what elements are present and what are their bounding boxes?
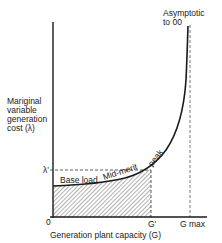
- y-axis-label: Mariginal variable generation cost (λ): [7, 97, 47, 133]
- label-peak: peak: [146, 147, 166, 168]
- asymptote-label: Asymptotic to 00: [163, 9, 205, 27]
- asymptote-label-line: to 00: [163, 18, 205, 27]
- origin-label: 0: [46, 218, 51, 227]
- y-axis-label-line: cost (λ): [7, 124, 47, 133]
- marginal-cost-curve: [53, 26, 188, 186]
- g-max-label: G max: [180, 220, 205, 229]
- g-prime-label: G': [148, 220, 156, 229]
- x-axis-label: Generation plant capacity (G): [50, 231, 161, 240]
- label-base-load: Base load: [60, 175, 98, 185]
- lambda-prime-label: λ': [43, 166, 49, 175]
